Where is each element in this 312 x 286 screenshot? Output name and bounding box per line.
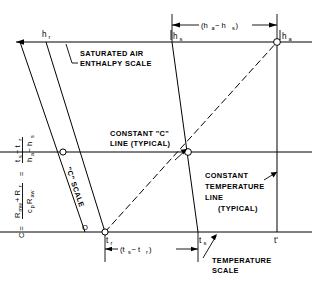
svg-text:s: s xyxy=(179,36,182,42)
tick-label-t-prime: t' xyxy=(274,236,278,245)
temperature-scale-leader-arrow-icon xyxy=(211,234,217,240)
svg-text:t: t xyxy=(199,236,202,245)
svg-text:− h: − h xyxy=(25,142,34,153)
svg-text:r: r xyxy=(48,34,50,40)
svg-text:r: r xyxy=(146,249,148,255)
svg-text:− h: − h xyxy=(215,21,226,30)
dim-arrow-left-lower-icon xyxy=(105,247,112,251)
svg-text:LINE (TYPICAL): LINE (TYPICAL) xyxy=(110,139,171,148)
diagram-canvas: h r h s h a O t r t s t' (h xyxy=(0,0,312,286)
svg-text:c: c xyxy=(25,209,34,213)
formula-block: C = R mw + R r c p R aw = t s − t r xyxy=(13,135,35,238)
tick-label-h-s: h s xyxy=(171,30,182,42)
formula-fraction-1: R mw + R r c p R aw xyxy=(13,183,35,219)
svg-text:h: h xyxy=(173,32,178,41)
svg-text:ENTHALPY SCALE: ENTHALPY SCALE xyxy=(80,59,152,68)
svg-text:(TYPICAL): (TYPICAL) xyxy=(218,204,258,213)
svg-text:(h: (h xyxy=(201,21,208,30)
saturated-air-enthalpy-scale-label: SATURATED AIR ENTHALPY SCALE xyxy=(80,49,152,68)
svg-text:SATURATED AIR: SATURATED AIR xyxy=(80,49,144,58)
constant-temp-leader xyxy=(264,172,277,180)
svg-text:s: s xyxy=(203,240,206,246)
svg-text:− t: − t xyxy=(13,144,22,154)
node-h-a xyxy=(274,39,281,46)
enthalpy-span-label: (h a − h s ) xyxy=(201,21,239,31)
h-s-constant-line xyxy=(172,42,198,232)
svg-text:): ) xyxy=(236,21,239,30)
formula-fraction-2: t s − t r h a − h s xyxy=(13,135,35,163)
svg-text:(t: (t xyxy=(120,245,126,254)
formula-lhs: C = xyxy=(17,225,26,238)
enthalpy-scale-leader xyxy=(66,44,78,63)
svg-text:TEMPERATURE: TEMPERATURE xyxy=(212,256,272,265)
svg-text:r: r xyxy=(110,240,112,246)
constant-temperature-line-label: CONSTANT TEMPERATURE LINE (TYPICAL) xyxy=(205,171,265,213)
svg-text:O: O xyxy=(82,223,88,232)
svg-text:h: h xyxy=(282,32,287,41)
svg-text:SCALE: SCALE xyxy=(212,266,239,275)
node-c-scale xyxy=(60,149,66,155)
svg-text:CONSTANT: CONSTANT xyxy=(205,171,248,180)
constant-temp-leader-arrow-icon xyxy=(271,172,278,178)
svg-text:t': t' xyxy=(274,236,278,245)
enthalpy-scale-axis xyxy=(16,39,312,45)
svg-text:R: R xyxy=(13,212,22,218)
svg-text:+ R: + R xyxy=(13,189,22,202)
svg-text:TEMPERATURE: TEMPERATURE xyxy=(205,182,265,191)
svg-text:): ) xyxy=(149,245,152,254)
formula-equals: = xyxy=(17,171,26,176)
dim-arrow-left-icon xyxy=(172,23,180,28)
svg-text:p: p xyxy=(29,205,35,208)
svg-text:R: R xyxy=(25,198,34,204)
temperature-scale-label: TEMPERATURE SCALE xyxy=(212,256,272,275)
dim-arrow-right-lower-icon xyxy=(191,247,198,251)
tick-label-t-s: t s xyxy=(199,236,206,246)
svg-text:− t: − t xyxy=(132,245,142,254)
tick-label-origin: O xyxy=(82,223,88,232)
tick-label-h-r: h r xyxy=(42,30,50,40)
svg-text:LINE: LINE xyxy=(205,193,223,202)
svg-text:t: t xyxy=(106,236,109,245)
dim-arrow-right-icon xyxy=(269,23,277,28)
tick-label-t-r: t r xyxy=(106,236,112,246)
constant-c-line-label: CONSTANT "C" LINE (TYPICAL) xyxy=(110,129,171,148)
node-t-r xyxy=(102,229,108,235)
svg-text:aw: aw xyxy=(29,191,35,198)
svg-text:CONSTANT "C": CONSTANT "C" xyxy=(110,129,169,138)
temperature-span-label: (t s − t r ) xyxy=(120,245,152,255)
psychrometric-diagram: h r h s h a O t r t s t' (h xyxy=(0,0,312,286)
svg-text:s: s xyxy=(29,135,35,138)
svg-text:h: h xyxy=(42,30,47,39)
svg-text:t: t xyxy=(13,159,22,162)
svg-text:h: h xyxy=(25,158,34,162)
svg-text:a: a xyxy=(288,36,292,42)
tick-label-h-a: h a xyxy=(280,30,292,42)
